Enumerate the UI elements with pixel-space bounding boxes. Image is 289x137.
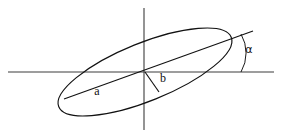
label-semi-minor-b: b bbox=[160, 71, 166, 85]
label-semi-major-a: a bbox=[94, 84, 100, 98]
label-angle-alpha: α bbox=[245, 43, 252, 56]
figure-canvas: a b α bbox=[0, 0, 289, 137]
minor-axis-segment bbox=[145, 72, 159, 92]
ellipse-diagram: a b α bbox=[0, 0, 289, 137]
major-axis-segment bbox=[64, 31, 253, 99]
